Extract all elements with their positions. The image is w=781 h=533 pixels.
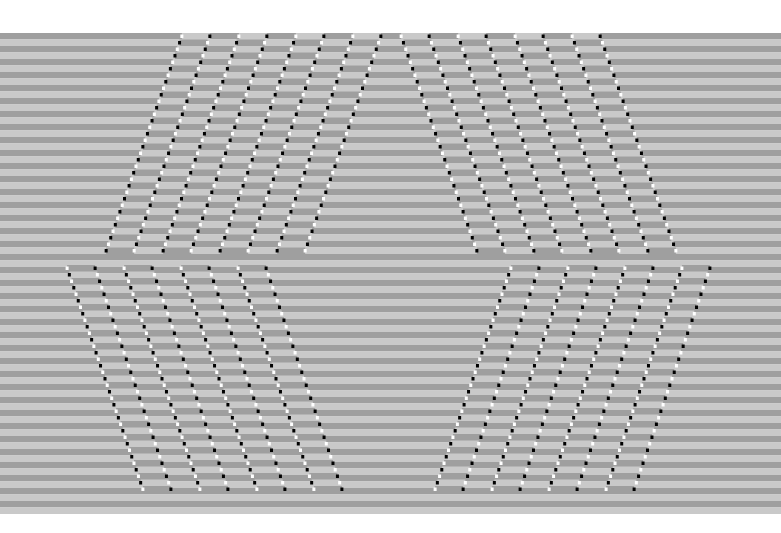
edge-dot (596, 429, 599, 433)
edge-dot (675, 364, 678, 368)
edge-dot (181, 113, 184, 117)
edge-dot (615, 243, 618, 247)
edge-dot (129, 286, 132, 290)
band-stripe (260, 330, 288, 337)
band-stripe (497, 144, 525, 151)
edge-dot (446, 87, 449, 91)
edge-dot (483, 191, 486, 195)
edge-dot (77, 299, 80, 303)
edge-dot (567, 106, 570, 110)
edge-dot (434, 132, 437, 136)
edge-dot (178, 41, 181, 45)
band-stripe (598, 343, 626, 350)
edge-dot (588, 371, 591, 375)
band-stripe (436, 131, 464, 138)
band-stripe (212, 356, 240, 363)
band-stripe (200, 144, 228, 151)
band-stripe (494, 480, 522, 487)
edge-dot (255, 145, 258, 149)
edge-dot (160, 462, 163, 466)
edge-dot (521, 481, 524, 485)
edge-dot (642, 236, 645, 240)
band-stripe (486, 337, 514, 344)
edge-dot (622, 100, 625, 104)
edge-dot (222, 390, 225, 394)
edge-dot (631, 126, 634, 130)
band-stripe (457, 421, 485, 428)
edge-dot (164, 243, 167, 247)
edge-dot (594, 100, 597, 104)
edge-dot (578, 217, 581, 221)
band-stripe (125, 196, 153, 203)
edge-dot (601, 204, 604, 208)
stripe-dark (0, 501, 781, 508)
band-stripe (677, 278, 705, 285)
edge-dot (581, 145, 584, 149)
band-stripe (131, 176, 159, 183)
edge-dot (262, 126, 265, 130)
band-stripe (191, 170, 219, 177)
edge-dot (270, 449, 273, 453)
edge-dot (550, 397, 553, 401)
band-stripe (493, 131, 521, 138)
edge-dot (607, 139, 610, 143)
edge-dot (254, 67, 257, 71)
stripe-dark (0, 150, 781, 157)
edge-dot (257, 410, 260, 414)
band-stripe (522, 53, 550, 60)
edge-dot (276, 165, 279, 169)
edge-dot (338, 152, 341, 156)
edge-dot (342, 61, 345, 65)
band-stripe (118, 215, 146, 222)
edge-dot (649, 273, 652, 277)
band-stripe (348, 46, 376, 53)
edge-dot (564, 273, 567, 277)
edge-dot (544, 332, 547, 336)
edge-dot (278, 306, 281, 310)
band-stripe (617, 454, 645, 461)
edge-dot (256, 223, 259, 227)
edge-dot (468, 230, 471, 234)
edge-dot (115, 410, 118, 414)
stripe-light (0, 274, 781, 281)
edge-dot (287, 217, 290, 221)
edge-dot (627, 423, 630, 427)
band-stripe (437, 480, 465, 487)
edge-dot (228, 61, 231, 65)
band-stripe (141, 150, 169, 157)
edge-dot (605, 132, 608, 136)
band-stripe (534, 85, 562, 92)
band-stripe (74, 285, 102, 292)
edge-dot (577, 319, 580, 323)
edge-dot (208, 35, 211, 39)
edge-dot (459, 204, 462, 208)
band-stripe (318, 131, 346, 138)
edge-dot (475, 87, 478, 91)
edge-dot (488, 410, 491, 414)
edge-dot (258, 217, 261, 221)
band-stripe (566, 272, 594, 279)
edge-dot (308, 475, 311, 479)
edge-dot (438, 475, 441, 479)
edge-dot (151, 119, 154, 123)
band-stripe (151, 343, 179, 350)
edge-dot (242, 100, 245, 104)
band-stripe (475, 369, 503, 376)
edge-dot (549, 54, 552, 58)
stripe-layer (0, 33, 781, 514)
edge-dot (173, 54, 176, 58)
edge-dot (300, 371, 303, 375)
band-stripe (616, 291, 644, 298)
band-stripe (282, 72, 310, 79)
band-stripe (166, 389, 194, 396)
band-stripe (137, 304, 165, 311)
edge-dot (646, 249, 649, 253)
band-stripe (276, 376, 304, 383)
edge-dot (281, 397, 284, 401)
edge-dot (210, 273, 213, 277)
band-stripe (408, 53, 436, 60)
edge-dot (265, 119, 268, 123)
edge-dot (559, 371, 562, 375)
edge-dot (608, 61, 611, 65)
edge-dot (203, 210, 206, 214)
